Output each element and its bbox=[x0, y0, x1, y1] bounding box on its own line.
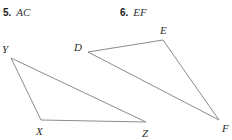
triangle-xyz-outline bbox=[11, 58, 146, 122]
vertex-label-f: F bbox=[222, 123, 229, 134]
geometry-figure bbox=[0, 0, 232, 140]
triangle-def-outline bbox=[88, 40, 219, 120]
vertex-label-x: X bbox=[36, 126, 43, 137]
vertex-label-d: D bbox=[74, 42, 82, 53]
vertex-label-e: E bbox=[160, 25, 167, 36]
vertex-label-y: Y bbox=[2, 44, 8, 55]
figure-page: 5.AC 6.EF YXZDEF bbox=[0, 0, 232, 140]
vertex-label-z: Z bbox=[142, 128, 148, 139]
